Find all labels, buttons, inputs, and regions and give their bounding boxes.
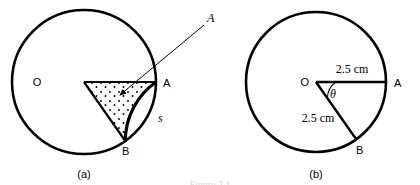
point-b-label-b: B — [356, 144, 363, 156]
caption-b: (b) — [309, 168, 322, 180]
diagram-a-group: O A B s A (a) — [12, 10, 215, 180]
center-label-b: O — [300, 76, 309, 88]
diagram-b-group: O A B θ 2.5 cm 2.5 cm (b) — [246, 12, 402, 180]
caption-a: (a) — [77, 168, 90, 180]
callout-leader-line — [120, 25, 204, 95]
center-label-a: O — [33, 76, 42, 88]
radius-oa-dimension-label: 2.5 cm — [336, 62, 369, 76]
point-a-label-b: A — [394, 77, 402, 89]
point-b-label-a: B — [122, 145, 129, 157]
figure-svg: O A B s A (a) O A B θ 2.5 cm 2.5 cm — [0, 0, 420, 185]
figure-number-footer: Figure 2.1 — [189, 179, 230, 185]
arc-length-label-s: s — [158, 111, 163, 125]
radius-ob-dimension-label: 2.5 cm — [302, 111, 335, 125]
figure-container: O A B s A (a) O A B θ 2.5 cm 2.5 cm — [0, 0, 420, 185]
callout-area-label: A — [206, 11, 215, 25]
angle-label-theta: θ — [330, 87, 336, 101]
point-a-label-a: A — [163, 77, 171, 89]
